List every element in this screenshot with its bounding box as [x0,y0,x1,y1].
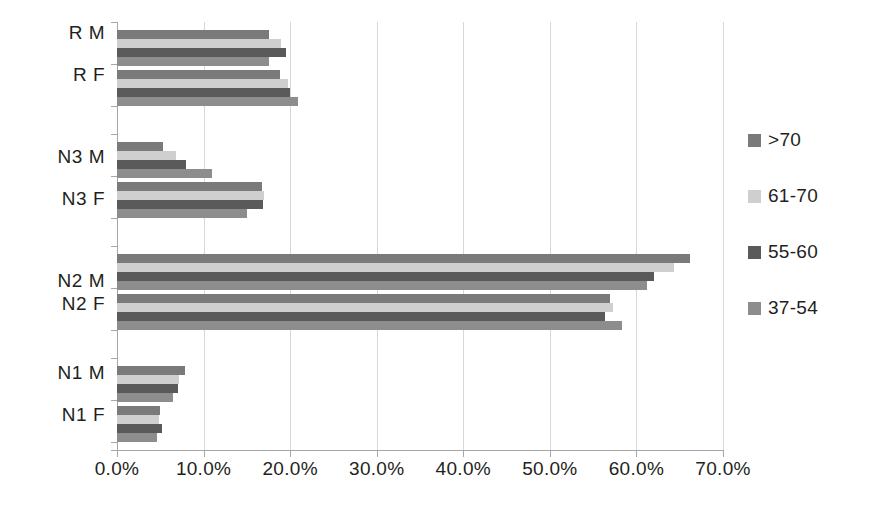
bar [117,142,163,151]
y-tick-mark [111,218,117,219]
y-axis-label-n1-m: N1 M [5,363,105,383]
y-tick-mark [111,176,117,177]
bar-fill [117,200,263,209]
x-axis-label: 70.0% [678,457,768,481]
y-tick-mark [111,450,117,451]
bar [117,151,176,160]
bar-fill [117,151,176,160]
bar [117,263,674,272]
bar-fill [117,384,178,393]
x-tick-mark [117,450,118,457]
bar-fill [117,294,610,303]
bar-fill [117,281,647,290]
y-axis-label-n1-f: N1 F [5,405,105,425]
bar-fill [117,272,654,281]
bar-fill [117,406,160,415]
y-axis-label-n3-m: N3 M [5,147,105,167]
legend-label: 61-70 [768,186,818,206]
bar [117,48,286,57]
bar [117,57,269,66]
x-axis-label: 50.0% [505,457,595,481]
gridline-40.0% [463,22,464,450]
x-axis-label: 0.0% [72,457,162,481]
bar [117,366,185,375]
y-tick-mark [111,64,117,65]
bar-fill [117,169,212,178]
bar [117,191,264,200]
y-axis-label-n3-f: N3 F [5,189,105,209]
x-tick-mark [204,450,205,457]
bar-fill [117,142,163,151]
x-axis-label: 30.0% [332,457,422,481]
bar [117,415,159,424]
bar [117,384,178,393]
bar-fill [117,97,298,106]
y-tick-mark [111,442,117,443]
bar-fill [117,209,247,218]
y-axis-label-n2-m: N2 M [5,271,105,291]
x-axis-label: 10.0% [159,457,249,481]
bar [117,200,263,209]
y-tick-mark [111,330,117,331]
x-axis-label: 40.0% [418,457,508,481]
bar-fill [117,433,157,442]
legend-item-61-70[interactable]: 61-70 [748,168,878,224]
gridline-50.0% [550,22,551,450]
bar-fill [117,160,186,169]
bar-fill [117,375,179,384]
gridline-20.0% [290,22,291,450]
legend-square-icon [748,134,761,147]
bar [117,406,160,415]
bar-fill [117,79,288,88]
bar-fill [117,48,286,57]
legend-item--70[interactable]: >70 [748,112,878,168]
bar [117,97,298,106]
bar-fill [117,70,280,79]
legend-item-37-54[interactable]: 37-54 [748,280,878,336]
x-tick-mark [377,450,378,457]
bar-fill [117,393,173,402]
bar-fill [117,366,185,375]
bar [117,321,622,330]
y-tick-mark [111,134,117,135]
x-tick-mark [550,450,551,457]
bar-fill [117,57,269,66]
y-tick-mark [111,400,117,401]
bar [117,375,179,384]
bar [117,393,173,402]
legend-label: 55-60 [768,242,818,262]
plot-area [117,22,723,450]
y-tick-mark [111,22,117,23]
x-axis-label: 60.0% [591,457,681,481]
y-tick-mark [111,288,117,289]
bar [117,294,610,303]
gridline-70.0% [723,22,724,450]
bar-fill [117,191,264,200]
bar-fill [117,321,622,330]
y-axis-labels: R MR FN3 MN3 FN2 MN2 FN1 MN1 F [0,0,105,460]
bar-fill [117,312,605,321]
x-axis-label: 20.0% [245,457,335,481]
legend-label: 37-54 [768,298,818,318]
y-axis-label-n2-f: N2 F [5,294,105,314]
legend-label: >70 [768,130,801,150]
y-tick-mark [111,246,117,247]
x-tick-mark [463,450,464,457]
legend-item-55-60[interactable]: 55-60 [748,224,878,280]
bar-fill [117,39,281,48]
bar-fill [117,88,290,97]
bar [117,79,288,88]
y-axis-label-r-m: R M [5,23,105,43]
x-tick-mark [636,450,637,457]
bar [117,182,262,191]
legend-square-icon [748,190,761,203]
bar-chart: R MR FN3 MN3 FN2 MN2 FN1 MN1 F >7061-705… [0,0,885,508]
bar [117,433,157,442]
legend-square-icon [748,246,761,259]
bar [117,30,269,39]
bar [117,160,186,169]
gridline-60.0% [636,22,637,450]
bar [117,281,647,290]
bar [117,312,605,321]
bar [117,70,280,79]
